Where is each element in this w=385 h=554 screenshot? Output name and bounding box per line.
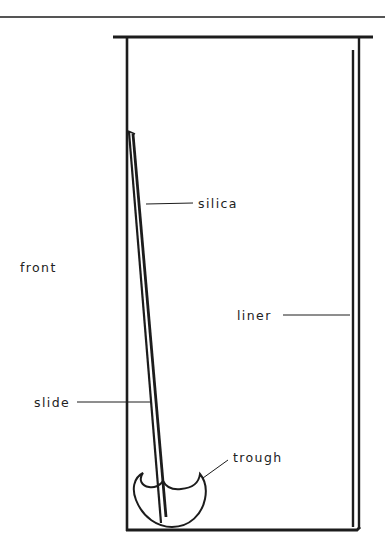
silica-layer [133,134,166,517]
silica-leader [146,203,193,204]
tank-diagram: silica front liner slide trough [0,0,385,554]
slide-label: slide [34,395,70,410]
tank-bottom [126,527,360,530]
trough-outline [134,473,206,527]
slide [129,132,161,523]
leader-lines [77,203,350,478]
trough-label: trough [233,450,283,465]
trough-leader [203,460,228,478]
liner-label: liner [237,308,272,323]
trough [134,473,206,527]
silica-label: silica [198,196,238,211]
front-label: front [20,260,57,275]
slide-assembly [128,131,166,523]
